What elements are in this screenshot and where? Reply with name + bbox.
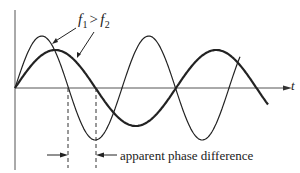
phase-difference-label: apparent phase difference [120, 148, 253, 164]
leader-line-f2 [79, 32, 94, 55]
greater-than: > [90, 11, 99, 27]
leader-arrow-f1 [52, 38, 58, 44]
time-axis-label: t [291, 78, 295, 94]
phase-arrow-right-head [96, 153, 104, 158]
f1-subscript: 1 [82, 19, 87, 30]
leader-line-f1 [54, 28, 76, 42]
phase-arrow-left-head [60, 153, 68, 158]
f2-subscript: 2 [105, 19, 110, 30]
frequency-label: f1>f2 [78, 11, 110, 30]
